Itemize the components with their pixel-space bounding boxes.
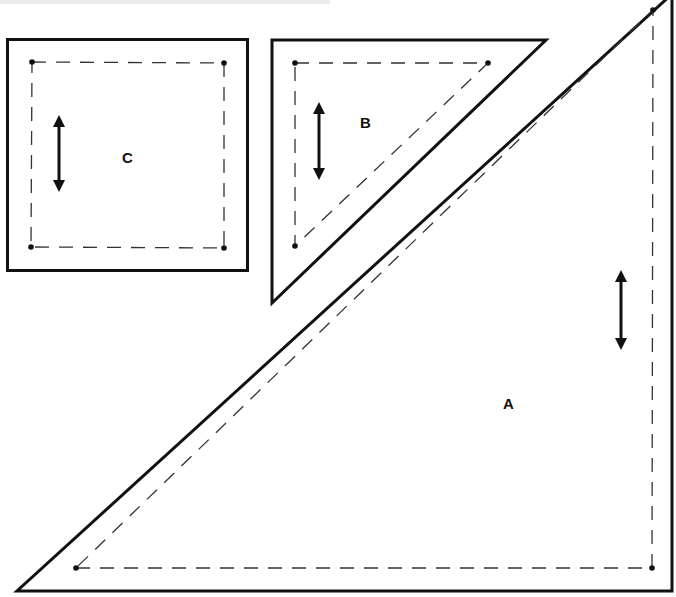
piece-b-corner-dot <box>485 60 491 66</box>
piece-b-corner-dot <box>292 60 298 66</box>
piece-c-label: C <box>122 149 133 166</box>
piece-b-outline <box>272 40 546 303</box>
piece-a-corner-dot <box>650 7 656 13</box>
piece-a-corner-dot <box>73 565 79 571</box>
piece-b-corner-dot <box>292 243 298 249</box>
piece-b: B <box>272 40 546 303</box>
piece-c-corner-dot <box>28 244 34 250</box>
piece-c-corner-dot <box>29 59 35 65</box>
piece-c-corner-dot <box>221 60 227 66</box>
piece-a-label: A <box>503 395 514 412</box>
piece-c: C <box>8 40 248 271</box>
piece-a-outline <box>17 0 672 591</box>
piece-a: A <box>17 0 672 591</box>
piece-c-corner-dot <box>221 245 227 251</box>
pattern-diagram: A B C <box>0 0 676 597</box>
piece-b-label: B <box>360 114 371 131</box>
piece-a-corner-dot <box>649 565 655 571</box>
pattern-svg: A B C <box>0 0 676 597</box>
piece-b-seam-line <box>295 63 488 246</box>
piece-a-seam-line <box>76 10 653 568</box>
